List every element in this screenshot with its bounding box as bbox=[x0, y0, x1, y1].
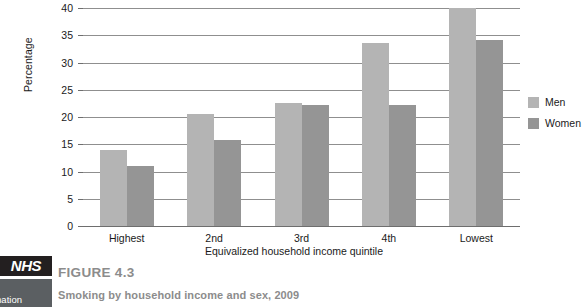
gridline-0 bbox=[83, 226, 520, 227]
bar-women bbox=[214, 140, 241, 226]
y-tick-mark bbox=[78, 172, 83, 173]
bar-group bbox=[362, 8, 416, 226]
bar-group bbox=[275, 8, 329, 226]
bar-men bbox=[275, 103, 302, 226]
y-tick-label: 25 bbox=[45, 84, 73, 96]
nhs-logo-subtext: e ormation bbox=[0, 279, 52, 307]
nhs-logo-mark: NHS bbox=[0, 256, 52, 276]
y-tick-label: 0 bbox=[45, 220, 73, 232]
bar-women bbox=[476, 40, 503, 226]
legend-label: Men bbox=[545, 96, 565, 108]
y-tick-mark bbox=[78, 226, 83, 227]
y-tick-label: 40 bbox=[45, 2, 73, 14]
y-tick-label: 5 bbox=[45, 193, 73, 205]
bar-men bbox=[362, 43, 389, 226]
y-tick-mark bbox=[78, 8, 83, 9]
bar-group bbox=[449, 8, 503, 226]
bar-women bbox=[302, 105, 329, 226]
y-tick-mark bbox=[78, 144, 83, 145]
y-tick-label: 15 bbox=[45, 138, 73, 150]
y-tick-mark bbox=[78, 35, 83, 36]
nhs-logo: NHS e ormation bbox=[0, 256, 52, 307]
nhs-logo-subtext-line-1: e bbox=[0, 280, 52, 293]
nhs-logo-subtext-line-2: ormation bbox=[0, 293, 52, 306]
x-axis-label-highest: Highest bbox=[83, 232, 170, 244]
figure-title: Smoking by household income and sex, 200… bbox=[58, 289, 299, 301]
y-tick-mark bbox=[78, 117, 83, 118]
y-axis-title: Percentage bbox=[22, 37, 34, 92]
figure-number: FIGURE 4.3 bbox=[58, 265, 135, 280]
legend-item-women: Women bbox=[528, 117, 581, 129]
bar-women bbox=[389, 105, 416, 226]
bar-women bbox=[127, 166, 154, 226]
plot-area: 0510152025303540 bbox=[83, 8, 520, 226]
x-axis-label-4th: 4th bbox=[345, 232, 432, 244]
y-tick-label: 20 bbox=[45, 111, 73, 123]
x-axis-label-3rd: 3rd bbox=[258, 232, 345, 244]
bar-men bbox=[449, 8, 476, 226]
y-tick-mark bbox=[78, 63, 83, 64]
bar-group bbox=[100, 8, 154, 226]
y-tick-label: 30 bbox=[45, 57, 73, 69]
legend-swatch-men bbox=[528, 97, 539, 108]
y-tick-label: 35 bbox=[45, 29, 73, 41]
x-axis-label-lowest: Lowest bbox=[433, 232, 520, 244]
bar-chart-figure: Percentage 0510152025303540 Highest2nd3r… bbox=[0, 0, 588, 250]
chart-legend: MenWomen bbox=[528, 96, 581, 138]
y-tick-mark bbox=[78, 199, 83, 200]
legend-swatch-women bbox=[528, 118, 539, 129]
y-tick-mark bbox=[78, 90, 83, 91]
figure-caption-block: NHS e ormation FIGURE 4.3 Smoking by hou… bbox=[0, 256, 588, 307]
y-tick-label: 10 bbox=[45, 166, 73, 178]
legend-label: Women bbox=[545, 117, 581, 129]
bar-men bbox=[100, 150, 127, 226]
legend-item-men: Men bbox=[528, 96, 581, 108]
x-axis-label-2nd: 2nd bbox=[170, 232, 257, 244]
bar-group bbox=[187, 8, 241, 226]
bar-men bbox=[187, 114, 214, 226]
